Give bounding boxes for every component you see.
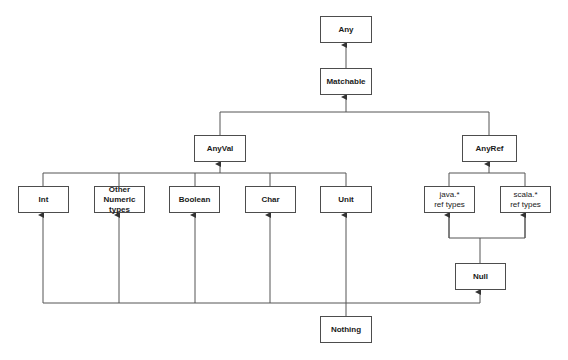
node-label: AnyRef xyxy=(475,144,503,154)
node-label: Nothing xyxy=(331,325,361,335)
node-null: Null xyxy=(455,263,506,290)
node-matchable: Matchable xyxy=(320,68,372,95)
node-char: Char xyxy=(245,186,296,213)
node-label: Any xyxy=(338,25,353,35)
edge-anyref-children-bus xyxy=(449,173,525,186)
node-anyref: AnyRef xyxy=(462,135,517,162)
node-label: Char xyxy=(261,195,279,205)
node-label: java.* ref types xyxy=(434,190,465,210)
node-label: scala.* ref types xyxy=(510,190,541,210)
node-label: AnyVal xyxy=(207,144,234,154)
node-label: Boolean xyxy=(179,195,211,205)
node-label: Int xyxy=(39,195,49,205)
node-int: Int xyxy=(18,186,69,213)
node-boolean: Boolean xyxy=(169,186,220,213)
node-label: Null xyxy=(473,272,488,282)
node-java-ref-types: java.* ref types xyxy=(424,186,475,213)
edge-null-refs-bus xyxy=(449,215,525,238)
edges-layer xyxy=(0,0,568,360)
node-nothing: Nothing xyxy=(320,316,372,343)
node-anyval: AnyVal xyxy=(194,135,246,162)
node-label: Other Numeric types xyxy=(103,185,135,215)
edge-anyval-anyref-bus xyxy=(220,112,489,135)
node-label: Unit xyxy=(338,195,354,205)
node-other-numeric: Other Numeric types xyxy=(94,186,145,213)
node-label: Matchable xyxy=(326,77,365,87)
node-scala-ref-types: scala.* ref types xyxy=(500,186,551,213)
node-any: Any xyxy=(320,16,372,43)
node-unit: Unit xyxy=(320,186,372,213)
